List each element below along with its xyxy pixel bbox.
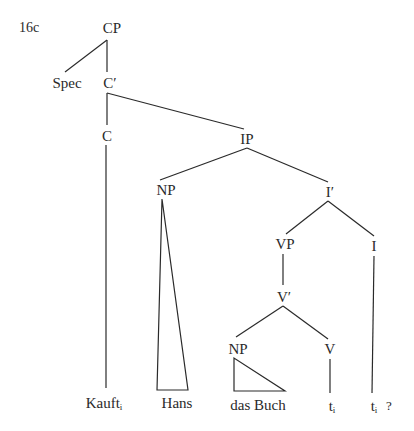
triangle-np-hans [157,199,188,390]
edge-ip-ibar [247,148,328,182]
leaf-hans: Hans [162,395,193,411]
node-c: C [102,128,112,144]
node-v: V [325,341,336,357]
edge-cbar-ip [107,93,244,129]
leaf-trace-i: ti [371,398,378,418]
leaf-kauft: Kaufti [86,395,123,415]
example-number: 16c [19,20,39,36]
node-ip: IP [240,131,253,147]
node-np-subject: NP [156,182,175,198]
node-vp: VP [275,236,294,252]
edge-ibar-i [328,201,374,236]
edge-ibar-vp [286,201,328,234]
node-v-bar: V′ [277,289,291,305]
node-i-bar: I′ [326,184,334,200]
edge-vbar-v [283,306,328,339]
edge-i-trace [372,256,374,393]
node-spec: Spec [52,75,81,91]
tree-edges [0,0,414,431]
node-c-bar: C′ [103,75,116,91]
leaf-trace-v: ti [329,398,336,418]
node-np-object: NP [228,341,247,357]
triangle-np-das-buch [234,358,285,391]
question-mark: ? [386,398,392,414]
edge-ip-np [160,148,247,180]
node-cp: CP [103,20,121,36]
edge-cp-spec [65,40,107,72]
edge-vbar-np [236,306,283,337]
node-i: I [372,238,377,254]
leaf-das-buch: das Buch [230,397,285,413]
